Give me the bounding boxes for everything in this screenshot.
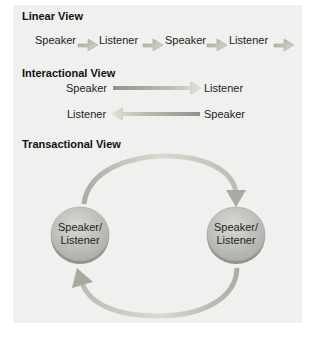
node-right-line1: Speaker/ xyxy=(206,221,266,234)
transactional-top-arrow-icon xyxy=(84,156,246,207)
node-left-line1: Speaker/ xyxy=(50,221,110,234)
node-left-line2: Listener xyxy=(50,234,110,247)
interactional-arrow-right-icon xyxy=(113,81,202,95)
linear-arrow-icon xyxy=(143,39,163,51)
transactional-node-right-label: Speaker/ Listener xyxy=(206,221,266,247)
interactional-arrow-left-icon xyxy=(111,107,200,121)
linear-arrow-icon xyxy=(274,39,294,51)
linear-arrow-icon xyxy=(78,39,98,51)
transactional-bottom-arrow-icon xyxy=(72,268,237,316)
linear-arrow-icon xyxy=(207,39,227,51)
node-right-line2: Listener xyxy=(206,234,266,247)
diagram-arrows xyxy=(0,0,313,337)
transactional-node-left-label: Speaker/ Listener xyxy=(50,221,110,247)
